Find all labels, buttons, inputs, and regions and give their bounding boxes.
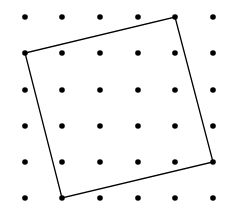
grid-dot [210,50,216,56]
grid-dot [135,87,141,93]
grid-dot [172,123,178,129]
grid-dot [97,195,103,201]
grid-dot [135,159,141,165]
grid-dot [210,14,216,20]
grid-dot [22,123,28,129]
dot-grid-diagram [0,0,231,205]
grid-dot [59,123,65,129]
grid-dot [172,87,178,93]
grid-dots [22,14,216,201]
grid-dot [59,14,65,20]
grid-dot [135,14,141,20]
grid-dot [172,50,178,56]
grid-dot [172,159,178,165]
grid-dot [135,123,141,129]
grid-dot [22,14,28,20]
grid-dot [59,87,65,93]
grid-dot [97,14,103,20]
grid-dot [135,195,141,201]
grid-dot [210,195,216,201]
grid-dot [210,123,216,129]
tilted-square [25,17,213,198]
grid-dot [22,159,28,165]
grid-dot [172,195,178,201]
grid-dot [97,87,103,93]
grid-dot [97,123,103,129]
grid-dot [59,50,65,56]
grid-dot [22,195,28,201]
grid-dot [97,159,103,165]
grid-dot [59,159,65,165]
grid-dot [210,87,216,93]
grid-dot [97,50,103,56]
grid-dot [22,87,28,93]
grid-dot [135,50,141,56]
